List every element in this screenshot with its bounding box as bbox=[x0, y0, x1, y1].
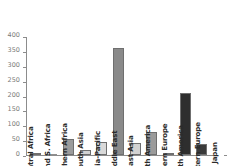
bar-slot: Northern Africa bbox=[60, 10, 77, 155]
bar-slot: Western Europe bbox=[194, 10, 211, 155]
bar-category-label: Eastern Europe bbox=[161, 123, 169, 166]
bar-slot: South Asia bbox=[77, 10, 94, 155]
bar-category-label: Middle East bbox=[111, 131, 119, 166]
bar-slot: East Asia bbox=[127, 10, 144, 155]
bar-slot: Asia-Pacific bbox=[94, 10, 111, 155]
bar-category-label: South America bbox=[144, 125, 152, 166]
y-axis-tick-label: 0 bbox=[16, 151, 20, 158]
y-axis-tick-label: 50 bbox=[12, 136, 20, 143]
bar-group: Central AfricaE. and S. AfricaNorthern A… bbox=[27, 10, 227, 155]
bar-category-label: Western Europe bbox=[194, 122, 202, 166]
y-axis-tick-label: 150 bbox=[8, 106, 20, 113]
bar-slot: North America bbox=[177, 10, 194, 155]
bar-category-label: South Asia bbox=[77, 132, 85, 166]
bar-slot: Japan bbox=[210, 10, 227, 155]
y-axis-tick-label: 250 bbox=[8, 77, 20, 84]
y-axis-tick-mark bbox=[23, 156, 26, 157]
bar-category-label: Central Africa bbox=[27, 126, 35, 166]
y-axis-tick-group: 400350300250200150100500 bbox=[0, 10, 26, 156]
bar-category-label: Northern Africa bbox=[61, 123, 69, 166]
bar-slot: E. and S. Africa bbox=[44, 10, 61, 155]
plot-area: 400350300250200150100500 Central AfricaE… bbox=[26, 10, 228, 156]
y-axis-tick-label: 350 bbox=[8, 47, 20, 54]
bar-chart: 400350300250200150100500 Central AfricaE… bbox=[0, 0, 230, 166]
bar-category-label: North America bbox=[177, 125, 185, 166]
bar-slot: Eastern Europe bbox=[160, 10, 177, 155]
y-axis-tick-label: 300 bbox=[8, 62, 20, 69]
y-axis-tick-label: 100 bbox=[8, 121, 20, 128]
y-axis-tick-label: 400 bbox=[8, 32, 20, 39]
bar-category-label: E. and S. Africa bbox=[44, 124, 52, 166]
bar-slot: Central Africa bbox=[27, 10, 44, 155]
bar-slot: South America bbox=[144, 10, 161, 155]
bar-category-label: Asia-Pacific bbox=[94, 131, 102, 166]
bar-category-label: Japan bbox=[211, 142, 219, 164]
bar-slot: Middle East bbox=[110, 10, 127, 155]
y-axis-tick-label: 200 bbox=[8, 92, 20, 99]
bar-category-label: East Asia bbox=[127, 135, 135, 166]
